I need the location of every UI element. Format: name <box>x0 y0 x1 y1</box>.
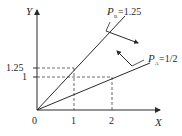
y-axis-label: Y <box>26 5 34 17</box>
y-tick-label-1: 1 <box>22 71 27 82</box>
x-tick-label-2: 2 <box>109 115 114 126</box>
x-axis-label: X <box>154 116 163 128</box>
pa-label-value: =1/2 <box>159 53 177 64</box>
rotation-arrow-b-icon <box>106 31 138 43</box>
pb-label-main: P <box>106 5 114 17</box>
price-ratio-diagram: Y X 0 1 2 1.25 1 P B =1.25 P A =1/2 <box>0 0 182 136</box>
line-pa <box>37 63 150 110</box>
leader-pa <box>132 60 144 66</box>
line-pb <box>37 16 125 110</box>
leader-pb <box>106 22 110 31</box>
pb-label-value: =1.25 <box>118 6 141 17</box>
origin-label: 0 <box>32 115 37 126</box>
x-tick-label-1: 1 <box>71 115 76 126</box>
rotation-arrow-a-icon <box>117 51 132 66</box>
y-tick-label-1.25: 1.25 <box>6 62 24 73</box>
pa-label-main: P <box>147 52 155 64</box>
